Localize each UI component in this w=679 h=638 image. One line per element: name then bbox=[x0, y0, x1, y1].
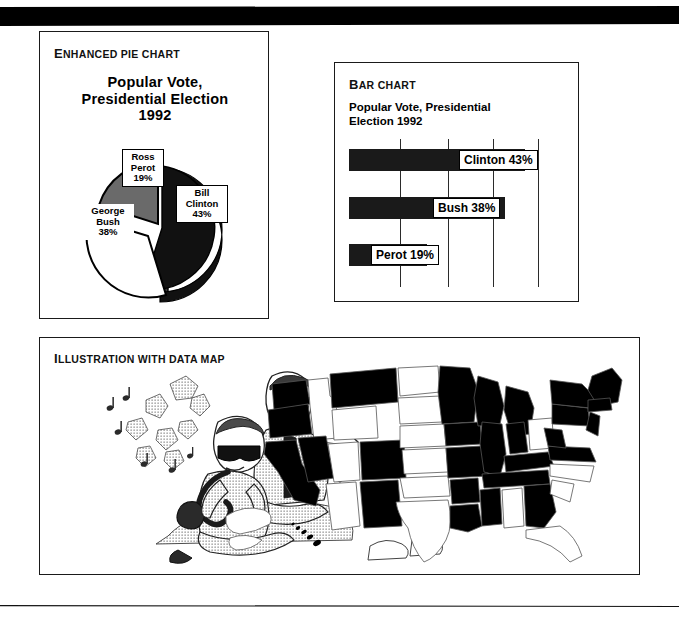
bar-chart-plot-area: Clinton 43% Bush 38% Perot 19% bbox=[349, 139, 564, 287]
state-kansas bbox=[402, 448, 448, 474]
bar-subtitle-line-2: Election 1992 bbox=[349, 114, 559, 128]
bar-label-bush: Bush 38% bbox=[433, 198, 500, 218]
state-minnesota bbox=[438, 366, 478, 424]
state-virginia bbox=[548, 446, 596, 462]
pie-title-line-3: 1992 bbox=[40, 107, 270, 124]
state-wisconsin bbox=[474, 376, 504, 426]
state-montana bbox=[330, 368, 398, 408]
pie-title-line-1: Popular Vote, bbox=[40, 74, 270, 91]
state-louisiana bbox=[450, 504, 482, 532]
state-nebraska bbox=[400, 424, 446, 448]
state-oregon bbox=[268, 404, 312, 438]
illustration-svg bbox=[40, 360, 641, 574]
bar-label-clinton: Clinton 43% bbox=[459, 150, 538, 170]
state-mississippi bbox=[480, 488, 502, 526]
state-indiana bbox=[506, 422, 528, 454]
state-connecticut-rhode-island bbox=[588, 398, 612, 412]
state-arkansas bbox=[450, 478, 480, 504]
bar-heading-rest: AR CHART bbox=[359, 79, 416, 91]
bar-label-perot: Perot 19% bbox=[371, 245, 439, 265]
state-north-dakota bbox=[398, 366, 440, 396]
state-colorado bbox=[360, 440, 406, 480]
state-wyoming bbox=[332, 406, 378, 440]
state-arizona bbox=[326, 482, 360, 530]
state-north-carolina bbox=[550, 464, 594, 482]
bar-panel-heading: BAR CHART bbox=[349, 75, 416, 93]
bar-chart-panel: BAR CHART Popular Vote, Presidential Ele… bbox=[334, 62, 579, 302]
gridline-4 bbox=[538, 139, 539, 287]
pie-label-perot: Ross Perot 19% bbox=[122, 149, 164, 187]
pie-chart-figure: Bill Clinton 43% Ross Perot 19% George B… bbox=[40, 132, 270, 318]
illustration-artwork bbox=[40, 360, 641, 574]
music-notes-icon bbox=[126, 376, 210, 470]
bottom-divider-rule bbox=[0, 605, 679, 607]
state-south-carolina bbox=[550, 480, 574, 502]
pie-heading-rest: NHANCED PIE CHART bbox=[63, 48, 180, 60]
foreground-rock-a bbox=[368, 540, 408, 560]
state-utah bbox=[328, 442, 360, 482]
pie-heading-cap: E bbox=[54, 46, 63, 61]
state-kentucky bbox=[504, 452, 554, 472]
state-iowa bbox=[444, 422, 482, 446]
pie-panel-heading: ENHANCED PIE CHART bbox=[54, 44, 180, 62]
pie-title-line-2: Presidential Election bbox=[40, 91, 270, 108]
bar-subtitle-line-1: Popular Vote, Presidential bbox=[349, 100, 559, 114]
pie-label-clinton: Bill Clinton 43% bbox=[176, 185, 228, 223]
top-banner bbox=[0, 6, 679, 26]
illustration-with-data-map-panel: ILLUSTRATION WITH DATA MAP bbox=[39, 337, 640, 575]
state-florida bbox=[526, 526, 582, 562]
enhanced-pie-chart-panel: ENHANCED PIE CHART Popular Vote, Preside… bbox=[39, 31, 269, 319]
bar-heading-cap: B bbox=[349, 77, 359, 92]
state-oklahoma bbox=[400, 476, 450, 498]
state-new-mexico bbox=[360, 480, 402, 528]
state-illinois bbox=[480, 422, 506, 476]
state-south-dakota bbox=[398, 396, 442, 424]
pie-chart-title: Popular Vote, Presidential Election 1992 bbox=[40, 74, 270, 124]
state-alabama bbox=[502, 488, 524, 528]
bar-chart-subtitle: Popular Vote, Presidential Election 1992 bbox=[349, 100, 559, 128]
pie-label-bush: George Bush 38% bbox=[82, 204, 134, 240]
